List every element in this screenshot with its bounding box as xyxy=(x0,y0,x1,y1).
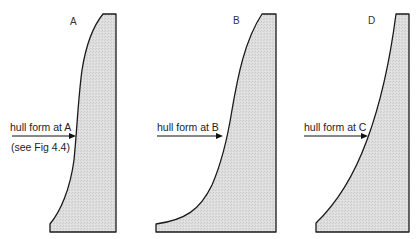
arrowhead-b xyxy=(216,133,223,139)
hull-sections-diagram: A hull form at A (see Fig 4.4) B hull fo… xyxy=(0,0,416,239)
panel-letter-a: A xyxy=(70,16,77,27)
panel-letter-b: B xyxy=(233,15,240,26)
annotation-reference-a: (see Fig 4.4) xyxy=(11,141,70,153)
annotation-label-b: hull form at B xyxy=(157,121,219,133)
panel-a: A hull form at A (see Fig 4.4) xyxy=(10,14,116,232)
panel-letter-d: D xyxy=(368,15,375,26)
arrowhead-c xyxy=(361,133,368,139)
panel-d: D hull form at C xyxy=(304,14,409,232)
annotation-label-c: hull form at C xyxy=(304,121,367,133)
panel-b: B hull form at B xyxy=(156,14,276,232)
arrowhead-a xyxy=(69,133,76,139)
annotation-label-a: hull form at A xyxy=(10,121,71,133)
